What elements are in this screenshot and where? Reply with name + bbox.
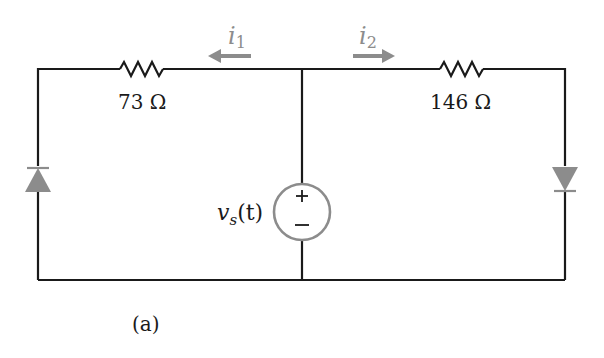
top-left-wire <box>38 69 120 280</box>
current-label-i1: i1 <box>228 22 246 52</box>
source-label: vs(t) <box>217 200 263 229</box>
resistor-73-zigzag <box>120 62 163 76</box>
resistor-73-label: 73 Ω <box>118 90 166 114</box>
current-label-i2: i2 <box>359 22 377 52</box>
circuit-diagram: i1 i2 73 Ω 146 Ω vs(t) (a) <box>0 0 604 358</box>
resistor-146-zigzag <box>440 62 483 76</box>
figure-caption: (a) <box>132 312 160 336</box>
voltage-source-icon <box>274 184 330 240</box>
diode-left-icon <box>25 166 51 192</box>
diode-right-icon <box>552 166 578 191</box>
top-right-wire <box>483 69 565 280</box>
resistor-146-label: 146 Ω <box>430 90 491 114</box>
